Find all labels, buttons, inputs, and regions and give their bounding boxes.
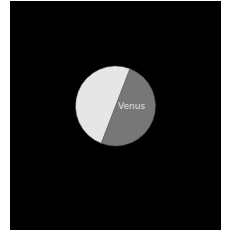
slice-label-venus: Venus [118, 101, 145, 111]
pie-chart: Venus [0, 0, 244, 233]
